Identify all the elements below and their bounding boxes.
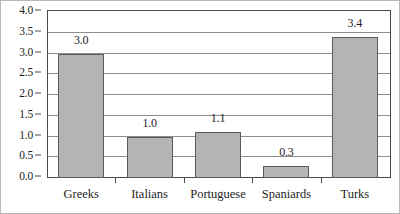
bar-group: 1.1 (184, 10, 252, 178)
x-axis-tick-label: Turks (340, 187, 369, 202)
bar-value-label: 3.4 (348, 16, 362, 31)
y-axis-tick-label: 1.5 (19, 108, 33, 120)
y-axis-tick-label: 4.0 (19, 4, 33, 16)
x-axis-tick-label: Spaniards (262, 187, 311, 202)
x-axis-tick-mark (321, 178, 322, 183)
y-axis-tick-label: 3.5 (19, 25, 33, 37)
y-axis-tick-label: 2.5 (19, 66, 33, 78)
y-axis-tick-label: 1.0 (19, 129, 33, 141)
x-axis-tick-label: Greeks (63, 187, 98, 202)
bar-value-label: 1.1 (211, 111, 225, 126)
y-axis-tick-mark (35, 113, 41, 114)
bar-group: 3.4 (321, 10, 389, 178)
bar (263, 166, 309, 178)
bar (58, 54, 104, 179)
bar-group: 1.0 (115, 10, 183, 178)
y-axis-tick-mark (35, 93, 41, 94)
y-axis-tick-mark (35, 51, 41, 52)
y-axis-tick-mark (35, 10, 41, 11)
bar-value-label: 1.0 (142, 116, 156, 131)
y-axis-tick-label: 2.0 (19, 87, 33, 99)
bar-value-label: 3.0 (74, 33, 88, 48)
x-axis-tick-label: Portuguese (190, 187, 246, 202)
bar-value-label: 0.3 (279, 145, 293, 160)
bar (195, 132, 241, 178)
bars-layer: 3.01.01.10.33.4 (47, 10, 391, 178)
x-axis-tick-mark (252, 178, 253, 183)
y-axis-tick-mark (35, 72, 41, 73)
bar-group: 3.0 (47, 10, 115, 178)
bar (332, 37, 378, 178)
y-axis-tick-mark (35, 134, 41, 135)
y-axis: 0.00.51.01.52.02.53.03.54.0 (1, 10, 41, 178)
y-axis-tick-label: 0.0 (19, 170, 33, 182)
y-axis-tick-mark (35, 176, 41, 177)
y-axis-tick-mark (35, 155, 41, 156)
y-axis-tick-label: 3.0 (19, 46, 33, 58)
bar-chart-figure: 0.00.51.01.52.02.53.03.54.0 3.01.01.10.3… (0, 0, 400, 214)
bar-group: 0.3 (252, 10, 320, 178)
x-axis-tick-mark (115, 178, 116, 183)
x-axis-tick-label: Italians (131, 187, 168, 202)
x-axis: GreeksItaliansPortugueseSpaniardsTurks (47, 178, 391, 214)
x-axis-tick-mark (184, 178, 185, 183)
bar (127, 137, 173, 179)
y-axis-tick-label: 0.5 (19, 149, 33, 161)
y-axis-tick-mark (35, 30, 41, 31)
